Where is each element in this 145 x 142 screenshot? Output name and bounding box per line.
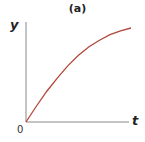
- data-curve: [26, 28, 131, 122]
- plot-area: [0, 0, 145, 142]
